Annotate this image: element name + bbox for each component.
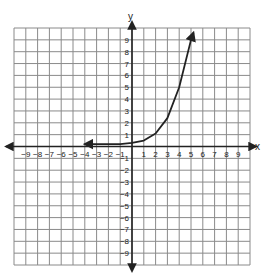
svg-text:9: 9 (236, 150, 241, 159)
svg-text:−6: −6 (57, 150, 67, 159)
svg-text:−7: −7 (120, 225, 130, 234)
svg-text:−2: −2 (120, 166, 130, 175)
svg-text:−8: −8 (120, 237, 130, 246)
svg-text:5: 5 (189, 150, 194, 159)
svg-text:−4: −4 (120, 190, 130, 199)
x-axis-label: x (255, 141, 260, 152)
svg-text:−3: −3 (92, 150, 102, 159)
svg-text:6: 6 (125, 71, 130, 80)
svg-text:−8: −8 (33, 150, 43, 159)
svg-text:1: 1 (142, 150, 147, 159)
svg-text:−2: −2 (104, 150, 114, 159)
svg-text:4: 4 (177, 150, 182, 159)
axes (6, 22, 256, 271)
svg-text:−5: −5 (68, 150, 78, 159)
svg-text:−7: −7 (45, 150, 55, 159)
svg-text:3: 3 (165, 150, 170, 159)
svg-text:8: 8 (224, 150, 229, 159)
svg-text:6: 6 (201, 150, 206, 159)
svg-text:−9: −9 (120, 249, 130, 258)
function-curve (85, 33, 194, 144)
svg-text:−6: −6 (120, 214, 130, 223)
svg-text:−9: −9 (21, 150, 31, 159)
svg-text:7: 7 (125, 60, 130, 69)
svg-text:4: 4 (125, 95, 130, 104)
svg-text:−3: −3 (120, 178, 130, 187)
svg-text:2: 2 (153, 150, 158, 159)
svg-text:9: 9 (125, 36, 130, 45)
svg-text:3: 3 (125, 107, 130, 116)
svg-text:−4: −4 (80, 150, 90, 159)
svg-text:7: 7 (212, 150, 217, 159)
svg-text:−1: −1 (120, 154, 130, 163)
svg-text:8: 8 (125, 48, 130, 57)
svg-text:2: 2 (125, 119, 130, 128)
svg-text:1: 1 (125, 131, 130, 140)
svg-text:−5: −5 (120, 202, 130, 211)
svg-text:5: 5 (125, 83, 130, 92)
coordinate-plane: −9−8−7−6−5−4−3−2−1123456789987654321−1−2… (0, 0, 264, 275)
y-axis-label: y (128, 11, 133, 22)
